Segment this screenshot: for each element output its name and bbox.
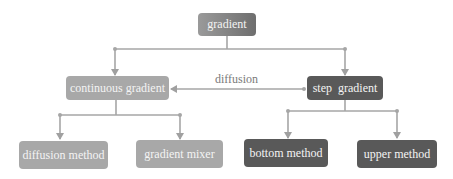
node-upper-method: upper method — [357, 140, 437, 168]
node-label: bottom method — [250, 146, 323, 161]
node-continuous-gradient: continuous gradient — [66, 76, 169, 100]
node-diffusion-method: diffusion method — [19, 141, 108, 169]
node-label: step gradient — [313, 81, 378, 96]
node-label: upper method — [364, 147, 430, 162]
node-label: gradient — [207, 17, 246, 32]
node-step-gradient: step gradient — [307, 76, 383, 100]
node-label: continuous gradient — [70, 81, 165, 96]
node-label: gradient mixer — [144, 147, 214, 162]
edge-label-diffusion: diffusion — [215, 72, 258, 87]
node-bottom-method: bottom method — [244, 139, 328, 167]
node-gradient: gradient — [198, 13, 256, 36]
node-label: diffusion method — [22, 148, 104, 163]
node-gradient-mixer: gradient mixer — [136, 140, 223, 168]
